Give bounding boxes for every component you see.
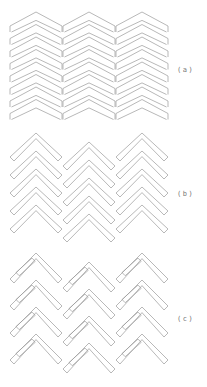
chevron-inner bbox=[118, 108, 167, 120]
chevron-band-outer bbox=[116, 307, 168, 337]
panel-b-label: (b) bbox=[177, 190, 194, 198]
chevron-inner bbox=[118, 33, 167, 45]
interlock-tab bbox=[16, 258, 35, 276]
chevron-band-outer bbox=[63, 262, 115, 292]
panel-c-pattern bbox=[10, 253, 168, 373]
chevron-inner bbox=[65, 45, 114, 57]
chevron-inner bbox=[118, 95, 167, 107]
interlock-tab bbox=[122, 312, 141, 330]
chevron-inner bbox=[118, 83, 167, 95]
interlock-tab bbox=[69, 267, 88, 285]
chevron-band-outer bbox=[63, 289, 115, 319]
chevron-inner bbox=[118, 45, 167, 57]
panel-a-label: (a) bbox=[177, 66, 194, 74]
chevron-band bbox=[116, 205, 168, 233]
chevron-inner bbox=[12, 83, 61, 95]
chevron-band-outer bbox=[10, 253, 62, 283]
chevron-band-outer bbox=[116, 334, 168, 364]
chevron-band bbox=[63, 214, 115, 242]
chevron-inner bbox=[65, 95, 114, 107]
chevron-band-outer bbox=[63, 343, 115, 373]
chevron-inner bbox=[12, 33, 61, 45]
chevron-inner bbox=[12, 45, 61, 57]
interlock-tab bbox=[122, 258, 141, 276]
chevron-inner bbox=[12, 20, 61, 32]
chevron-band-outer bbox=[10, 334, 62, 364]
interlock-tab bbox=[122, 339, 141, 357]
chevron-band-outer bbox=[10, 280, 62, 310]
chevron-inner bbox=[65, 70, 114, 82]
chevron-inner bbox=[118, 70, 167, 82]
chevron-band-outer bbox=[116, 280, 168, 310]
chevron-inner bbox=[65, 20, 114, 32]
panel-c-label: (c) bbox=[177, 315, 194, 323]
panel-b-pattern bbox=[10, 133, 168, 242]
chevron-inner bbox=[65, 33, 114, 45]
chevron-pattern-figure bbox=[0, 0, 207, 387]
interlock-tab bbox=[16, 312, 35, 330]
interlock-tab bbox=[69, 348, 88, 366]
chevron-inner bbox=[12, 95, 61, 107]
chevron-band bbox=[10, 205, 62, 233]
chevron-inner bbox=[118, 20, 167, 32]
chevron-band-outer bbox=[10, 307, 62, 337]
chevron-inner bbox=[118, 58, 167, 70]
interlock-tab bbox=[69, 321, 88, 339]
chevron-inner bbox=[65, 58, 114, 70]
chevron-band-outer bbox=[116, 253, 168, 283]
chevron-inner bbox=[12, 70, 61, 82]
chevron-inner bbox=[12, 108, 61, 120]
interlock-tab bbox=[122, 285, 141, 303]
panel-a-pattern bbox=[10, 12, 168, 120]
chevron-inner bbox=[65, 83, 114, 95]
chevron-inner bbox=[12, 58, 61, 70]
interlock-tab bbox=[69, 294, 88, 312]
interlock-tab bbox=[16, 285, 35, 303]
chevron-band-outer bbox=[63, 316, 115, 346]
interlock-tab bbox=[16, 339, 35, 357]
chevron-inner bbox=[65, 108, 114, 120]
